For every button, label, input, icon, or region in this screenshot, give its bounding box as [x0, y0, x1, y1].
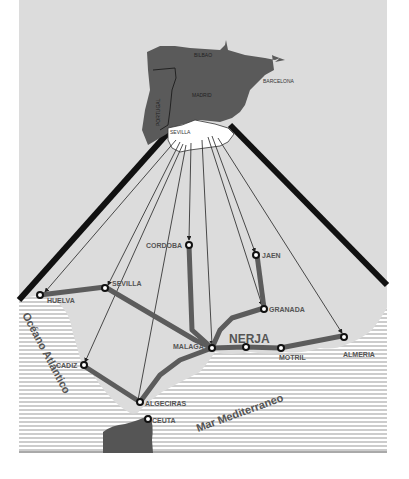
label-malaga: MALAGA	[173, 343, 204, 350]
label-algeciras: ALGECIRAS	[145, 400, 187, 407]
label-bilbao: BILBAO	[194, 52, 212, 58]
label-ceuta: CEUTA	[152, 417, 176, 424]
label-almeria: ALMERIA	[343, 351, 375, 358]
label-madrid: MADRID	[192, 92, 212, 98]
label-sevilla: SEVILLA	[112, 280, 142, 287]
label-jaen: JAEN	[262, 252, 281, 259]
label-huelva: HUELVA	[47, 297, 75, 304]
nerja-location-map: BILBAO MADRID BARCELONA PORTUGAL SEVILLA…	[0, 0, 409, 479]
label-granada: GRANADA	[269, 306, 305, 313]
label-sevilla-region: SEVILLA	[170, 129, 191, 135]
label-nerja: NERJA	[229, 332, 270, 346]
label-barcelona: BARCELONA	[263, 78, 295, 84]
label-portugal: PORTUGAL	[155, 98, 161, 126]
label-cordoba: CORDOBA	[146, 242, 182, 249]
label-motril: MOTRIL	[279, 354, 307, 361]
